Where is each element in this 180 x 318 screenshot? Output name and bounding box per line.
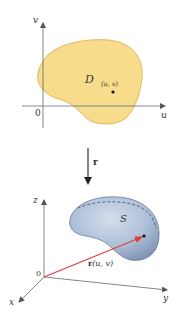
v-axis-label: v xyxy=(33,16,38,25)
region-d-label: D xyxy=(85,74,94,85)
u-axis-label: u xyxy=(161,111,167,120)
surface-point xyxy=(142,234,145,237)
y-axis xyxy=(44,277,167,290)
y-axis-label: y xyxy=(163,294,168,303)
x-axis-label: x xyxy=(9,298,14,307)
vector-label: r(u, v) xyxy=(88,259,113,268)
xyz-origin-label: 0 xyxy=(36,270,41,278)
point-uv xyxy=(111,90,114,93)
surface-s-label: S xyxy=(120,214,127,224)
parametric-surface-diagram xyxy=(0,0,180,318)
point-uv-label: (u, v) xyxy=(101,81,118,88)
z-axis-label: z xyxy=(33,196,38,205)
vector-label-args: (u, v) xyxy=(92,259,113,268)
uv-origin-label: 0 xyxy=(35,109,41,118)
mapping-arrow-label: r xyxy=(93,158,98,167)
xyz-space xyxy=(19,197,167,302)
x-axis xyxy=(19,277,44,302)
